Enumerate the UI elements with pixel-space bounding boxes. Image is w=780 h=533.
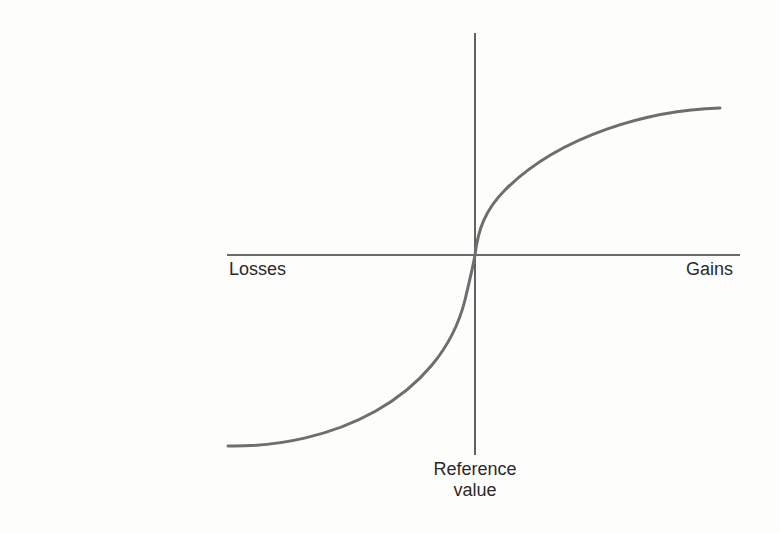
losses-label: Losses [229, 259, 286, 280]
value-curve [228, 108, 720, 446]
reference-value-label: Reference value [420, 459, 530, 501]
gains-label: Gains [686, 259, 733, 280]
reference-label-line2: value [420, 480, 530, 501]
value-function-diagram [0, 0, 780, 533]
reference-label-line1: Reference [420, 459, 530, 480]
